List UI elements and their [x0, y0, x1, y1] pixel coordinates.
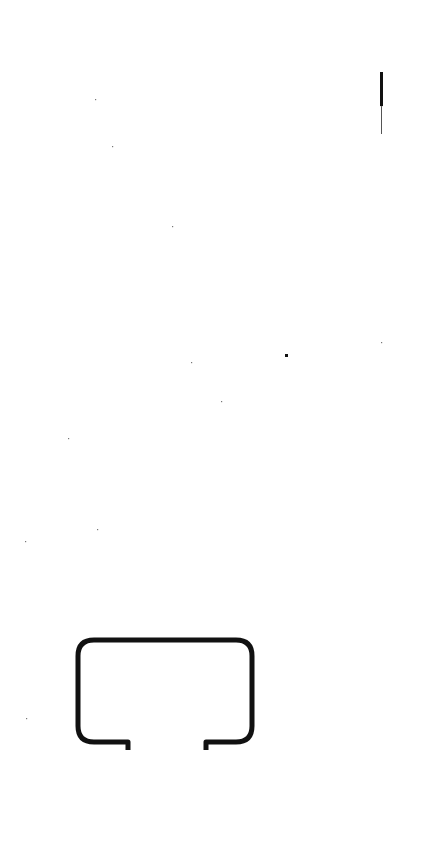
scan-specks: [25, 99, 382, 719]
scan-edge-mark: [380, 72, 383, 134]
scanned-page: [0, 0, 425, 848]
diagram-canvas: [0, 0, 425, 848]
c-channel-profile: [78, 640, 252, 750]
